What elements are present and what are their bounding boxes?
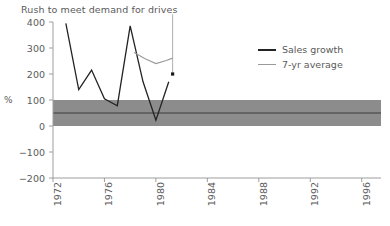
x-axis-tick-label: 1976: [103, 182, 114, 206]
x-axis-tick-label: 1996: [360, 182, 371, 206]
x-axis-tick-label: 1984: [206, 182, 217, 206]
chart-container: Rush to meet demand for drives 400300200…: [0, 0, 390, 226]
legend-swatch-icon: [258, 49, 276, 51]
x-axis-tick-label: 1980: [154, 182, 165, 206]
legend-swatch-icon: [258, 64, 276, 65]
legend-label: Sales growth: [282, 44, 343, 55]
x-axis-tick-label: 1972: [52, 182, 63, 206]
x-axis-tick-label: 1992: [309, 182, 320, 206]
legend-label: 7-yr average: [282, 59, 343, 70]
legend-item[interactable]: Sales growth: [258, 42, 343, 57]
legend-item[interactable]: 7-yr average: [258, 57, 343, 72]
chart-legend: Sales growth7-yr average: [258, 42, 343, 72]
x-axis-labels: 1972197619801984198819921996: [0, 0, 390, 226]
x-axis-tick-label: 1988: [257, 182, 268, 206]
